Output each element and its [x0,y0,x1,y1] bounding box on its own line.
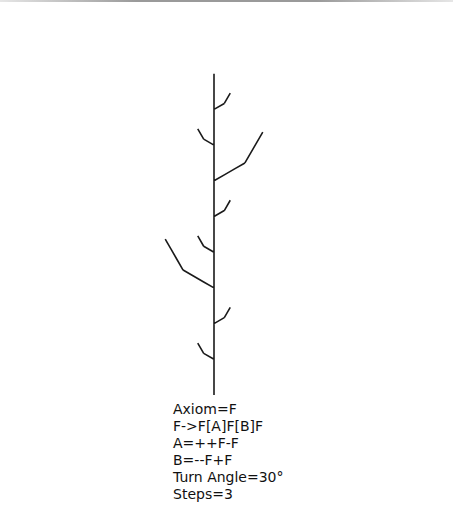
steps-label: Steps=3 [173,486,284,503]
rule-b-label: B=--F+F [173,452,284,469]
turn-angle-label: Turn Angle=30° [173,469,284,486]
rule-f-label: F->F[A]F[B]F [173,418,284,435]
rule-a-label: A=++F-F [173,435,284,452]
rules-legend: Axiom=F F->F[A]F[B]F A=++F-F B=--F+F Tur… [173,401,284,503]
tree-branches [165,74,263,395]
axiom-label: Axiom=F [173,401,284,418]
